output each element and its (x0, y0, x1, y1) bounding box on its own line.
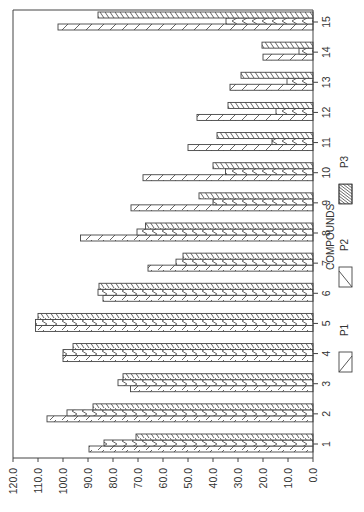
bar-p2-compound-3 (118, 380, 313, 386)
category-label: 10 (320, 167, 332, 179)
legend-item-p3: P3 (337, 155, 354, 218)
value-tick-label: 10.0 (282, 468, 294, 489)
bar-p1-compound-10 (143, 175, 313, 181)
value-tick-label: 20.0 (257, 468, 269, 489)
value-tick-label: 40.0 (207, 468, 219, 489)
bar-p3-compound-9 (199, 193, 313, 199)
value-tick-label: 70.0 (132, 468, 144, 489)
value-tick-label: 110.0 (32, 468, 44, 494)
value-tick-label: 90.0 (82, 468, 94, 489)
bar-p1-compound-15 (58, 24, 313, 30)
value-tick-label: 60.0 (157, 468, 169, 489)
bar-p2-compound-14 (299, 48, 313, 54)
bar-p3-compound-2 (93, 404, 313, 410)
bar-p2-compound-11 (272, 139, 313, 145)
legend-title: COMPOUNDS (325, 204, 336, 270)
legend-label: P3 (339, 155, 350, 168)
value-tick-label: 80.0 (107, 468, 119, 489)
legend-item-p2: P2 (339, 238, 352, 287)
bar-p3-compound-8 (146, 223, 314, 229)
category-label: 12 (320, 106, 332, 118)
bar-p1-compound-9 (131, 205, 313, 211)
bar-p3-compound-1 (136, 434, 313, 440)
bar-chart: 0.010.020.030.040.050.060.070.080.090.01… (0, 0, 364, 512)
bar-p1-compound-11 (188, 145, 313, 151)
bar-p2-compound-7 (176, 259, 313, 265)
bar-p1-compound-12 (197, 114, 313, 120)
value-tick-label: 0.0 (307, 468, 319, 483)
bar-p3-compound-13 (241, 72, 313, 78)
bar-p3-compound-7 (183, 253, 313, 259)
bar-p1-compound-1 (89, 446, 313, 452)
bar-p1-compound-8 (81, 235, 314, 241)
legend: COMPOUNDSP1P2P3 (325, 155, 354, 372)
bar-p2-compound-10 (226, 169, 314, 175)
bar-p2-compound-1 (104, 440, 313, 446)
bar-p3-compound-12 (228, 102, 313, 108)
bar-p1-compound-3 (131, 386, 314, 392)
bar-p1-compound-5 (36, 325, 314, 331)
category-label: 1 (320, 441, 332, 447)
bar-p2-compound-4 (63, 350, 313, 356)
plot-area (36, 12, 314, 452)
bar-p1-compound-6 (103, 295, 313, 301)
category-label: 4 (320, 350, 332, 356)
bar-p1-compound-2 (47, 416, 313, 422)
bar-p1-compound-4 (63, 356, 313, 362)
value-tick-label: 50.0 (182, 468, 194, 489)
chart-canvas: 0.010.020.030.040.050.060.070.080.090.01… (0, 0, 364, 512)
legend-item-p1: P1 (339, 323, 352, 372)
legend-label: P1 (339, 323, 350, 336)
bar-p3-compound-14 (262, 42, 313, 48)
bar-p1-compound-7 (148, 265, 313, 271)
bar-p3-compound-11 (217, 133, 313, 139)
category-label: 11 (320, 137, 332, 148)
value-tick-label: 30.0 (232, 468, 244, 489)
bar-p2-compound-2 (67, 410, 313, 416)
legend-label: P2 (339, 238, 350, 251)
bar-p3-compound-6 (99, 283, 313, 289)
category-label: 2 (320, 411, 332, 417)
bar-p3-compound-4 (73, 344, 313, 350)
bar-p3-compound-5 (38, 313, 313, 319)
bar-p2-compound-15 (226, 18, 313, 24)
bar-p2-compound-6 (98, 289, 313, 295)
bar-p3-compound-15 (98, 12, 313, 18)
value-tick-label: 100.0 (57, 468, 69, 494)
category-label: 15 (320, 16, 332, 28)
bar-p2-compound-9 (213, 199, 313, 205)
bar-p2-compound-5 (36, 319, 314, 325)
bar-p2-compound-13 (287, 78, 313, 84)
category-label: 5 (320, 320, 332, 326)
value-tick-label: 120.0 (7, 468, 19, 494)
category-label: 6 (320, 290, 332, 296)
bar-p3-compound-3 (123, 374, 313, 380)
bar-p1-compound-13 (230, 84, 313, 90)
bar-p3-compound-10 (213, 163, 313, 169)
bar-p1-compound-14 (263, 54, 313, 60)
category-label: 3 (320, 381, 332, 387)
category-label: 13 (320, 76, 332, 88)
category-label: 14 (320, 46, 332, 58)
bar-p2-compound-8 (137, 229, 313, 235)
bar-p2-compound-12 (276, 108, 313, 114)
